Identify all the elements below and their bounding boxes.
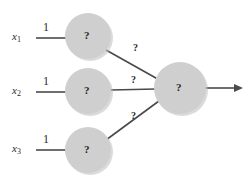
arrow-head-icon xyxy=(234,84,243,92)
hidden-output-edge-3-glyph: ? xyxy=(131,110,136,121)
input-label-1-sub: 1 xyxy=(17,35,21,44)
neural-network-diagram: x1 x2 x3 1 1 1 ? ? ? ? ? ? ? xyxy=(0,0,250,184)
input-weight-label-3: 1 xyxy=(43,132,49,147)
hidden-node-3-glyph: ? xyxy=(84,143,90,155)
hidden-output-edge-1-glyph: ? xyxy=(133,42,138,53)
output-node-glyph: ? xyxy=(176,81,182,93)
hidden-node-2-glyph: ? xyxy=(84,84,90,96)
input-weight-label-1: 1 xyxy=(43,20,49,35)
hidden-node-1-glyph: ? xyxy=(84,29,90,41)
input-label-2-sub: 2 xyxy=(17,89,21,98)
input-weight-label-2: 1 xyxy=(43,74,49,89)
input-label-3-sub: 3 xyxy=(17,147,21,156)
diagram-canvas xyxy=(0,0,250,184)
hidden-output-edge-2-glyph: ? xyxy=(131,74,136,85)
input-label-2: x2 xyxy=(12,84,21,98)
hidden-output-edge-2 xyxy=(111,89,156,90)
input-label-3: x3 xyxy=(12,142,21,156)
input-label-1: x1 xyxy=(12,30,21,44)
